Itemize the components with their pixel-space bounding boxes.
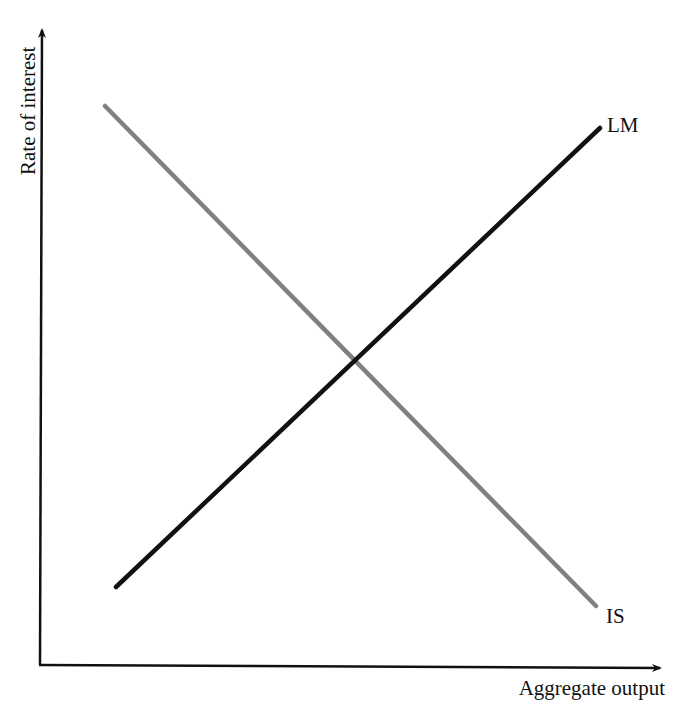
y-axis-label: Rate of interest bbox=[16, 47, 41, 175]
is-curve-label: IS bbox=[606, 604, 625, 629]
is-lm-diagram bbox=[0, 0, 679, 717]
x-axis bbox=[39, 665, 660, 668]
x-axis-label: Aggregate output bbox=[519, 676, 665, 701]
lm-curve bbox=[116, 128, 600, 587]
is-curve bbox=[105, 106, 596, 606]
lm-curve-label: LM bbox=[607, 113, 639, 138]
